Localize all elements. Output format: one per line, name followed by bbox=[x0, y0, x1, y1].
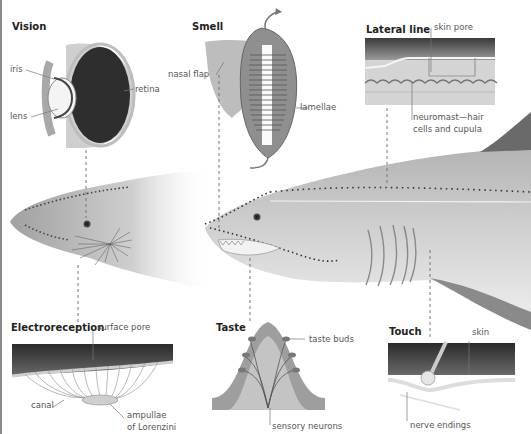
label-of-lorenzini: of Lorenzini bbox=[127, 422, 176, 433]
label-surface-pore: surface pore bbox=[97, 322, 150, 333]
shark-head-left bbox=[10, 171, 215, 290]
vision-eye-diagram bbox=[46, 43, 136, 148]
label-skin-pore: skin pore bbox=[434, 22, 473, 33]
shark-body bbox=[205, 112, 531, 330]
panel-title-electroreception: Electroreception bbox=[11, 322, 104, 333]
label-lamellae: lamellae bbox=[300, 102, 336, 113]
electroreception-diagram bbox=[12, 344, 173, 405]
label-neuromast: neuromast—hair bbox=[413, 112, 484, 123]
label-iris: iris bbox=[10, 64, 23, 75]
label-skin: skin bbox=[472, 327, 489, 338]
label-canal: canal bbox=[31, 400, 54, 411]
panel-title-taste: Taste bbox=[216, 322, 246, 333]
panel-title-smell: Smell bbox=[192, 21, 223, 32]
label-nasal-flap: nasal flap bbox=[168, 69, 209, 80]
label-lens: lens bbox=[10, 111, 27, 122]
label-nerve-endings: nerve endings bbox=[410, 420, 471, 431]
panel-title-vision: Vision bbox=[12, 21, 46, 32]
panel-title-lateral-line: Lateral line bbox=[366, 24, 430, 35]
shark-illustration bbox=[0, 0, 531, 434]
label-sensory-neurons: sensory neurons bbox=[272, 421, 342, 432]
label-ampullae: ampullae bbox=[127, 410, 166, 421]
label-retina: retina bbox=[135, 84, 160, 95]
label-cells-and-cupula: cells and cupula bbox=[413, 124, 482, 135]
label-taste-buds: taste buds bbox=[309, 334, 354, 345]
panel-title-touch: Touch bbox=[389, 326, 422, 337]
